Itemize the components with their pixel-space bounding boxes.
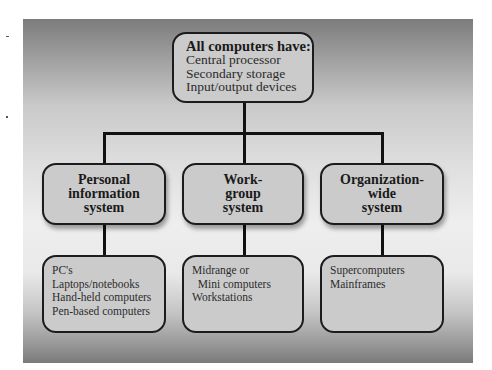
connector-right-leaf	[381, 225, 384, 256]
example-item: Mini computers	[192, 278, 302, 292]
connector-right-down	[381, 132, 384, 164]
connector-middle-down	[243, 132, 246, 164]
category-title-line: wide	[368, 187, 396, 201]
example-item: Workstations	[192, 291, 302, 305]
category-title-line: system	[362, 201, 402, 215]
category-box-organization: Organization- wide system	[320, 163, 444, 225]
example-item: Laptops/notebooks	[52, 278, 164, 292]
category-title-line: system	[84, 201, 124, 215]
examples-box-workgroup: Midrange or Mini computers Workstations	[182, 255, 304, 333]
margin-mark	[6, 116, 8, 118]
root-title: All computers have:	[186, 39, 312, 53]
connector-middle-leaf	[243, 225, 246, 256]
category-title-line: Organization-	[340, 173, 424, 187]
root-box: All computers have: Central processor Se…	[172, 32, 314, 103]
category-title-line: Personal	[78, 173, 130, 187]
connector-root-down	[243, 103, 246, 134]
example-item: Supercomputers	[330, 264, 442, 278]
root-item: Secondary storage	[186, 67, 312, 81]
example-item: Mainframes	[330, 278, 442, 292]
examples-box-organization: Supercomputers Mainframes	[320, 255, 444, 333]
root-item: Central processor	[186, 53, 312, 67]
root-item: Input/output devices	[186, 80, 312, 94]
example-item: PC's	[52, 264, 164, 278]
example-item: Midrange or	[192, 264, 302, 278]
example-item: Hand-held computers	[52, 291, 164, 305]
connector-left-down	[103, 132, 106, 164]
category-title-line: system	[223, 201, 263, 215]
category-title-line: information	[68, 187, 140, 201]
category-title-line: group	[225, 187, 261, 201]
category-box-workgroup: Work- group system	[182, 163, 304, 225]
margin-mark	[6, 36, 9, 37]
category-box-personal: Personal information system	[42, 163, 166, 225]
category-title-line: Work-	[224, 173, 263, 187]
connector-left-leaf	[103, 225, 106, 256]
examples-box-personal: PC's Laptops/notebooks Hand-held compute…	[42, 255, 166, 333]
example-item: Pen-based computers	[52, 305, 164, 319]
